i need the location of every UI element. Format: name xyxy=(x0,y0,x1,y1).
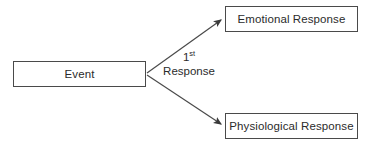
node-event-label: Event xyxy=(65,68,95,80)
node-emotional-response: Emotional Response xyxy=(225,6,358,32)
edge-label-first-response: 1st Response xyxy=(158,50,220,78)
node-physiological-response-label: Physiological Response xyxy=(229,120,353,132)
edge-label-ordinal-suffix: st xyxy=(189,49,195,58)
node-event: Event xyxy=(13,61,146,87)
edge-label-line1: 1st xyxy=(158,50,220,64)
node-physiological-response: Physiological Response xyxy=(225,113,358,139)
diagram-canvas: Event Emotional Response Physiological R… xyxy=(0,0,366,148)
edge-label-line2: Response xyxy=(158,64,220,78)
edge-event-to-physiological xyxy=(147,75,221,124)
node-emotional-response-label: Emotional Response xyxy=(238,13,346,25)
